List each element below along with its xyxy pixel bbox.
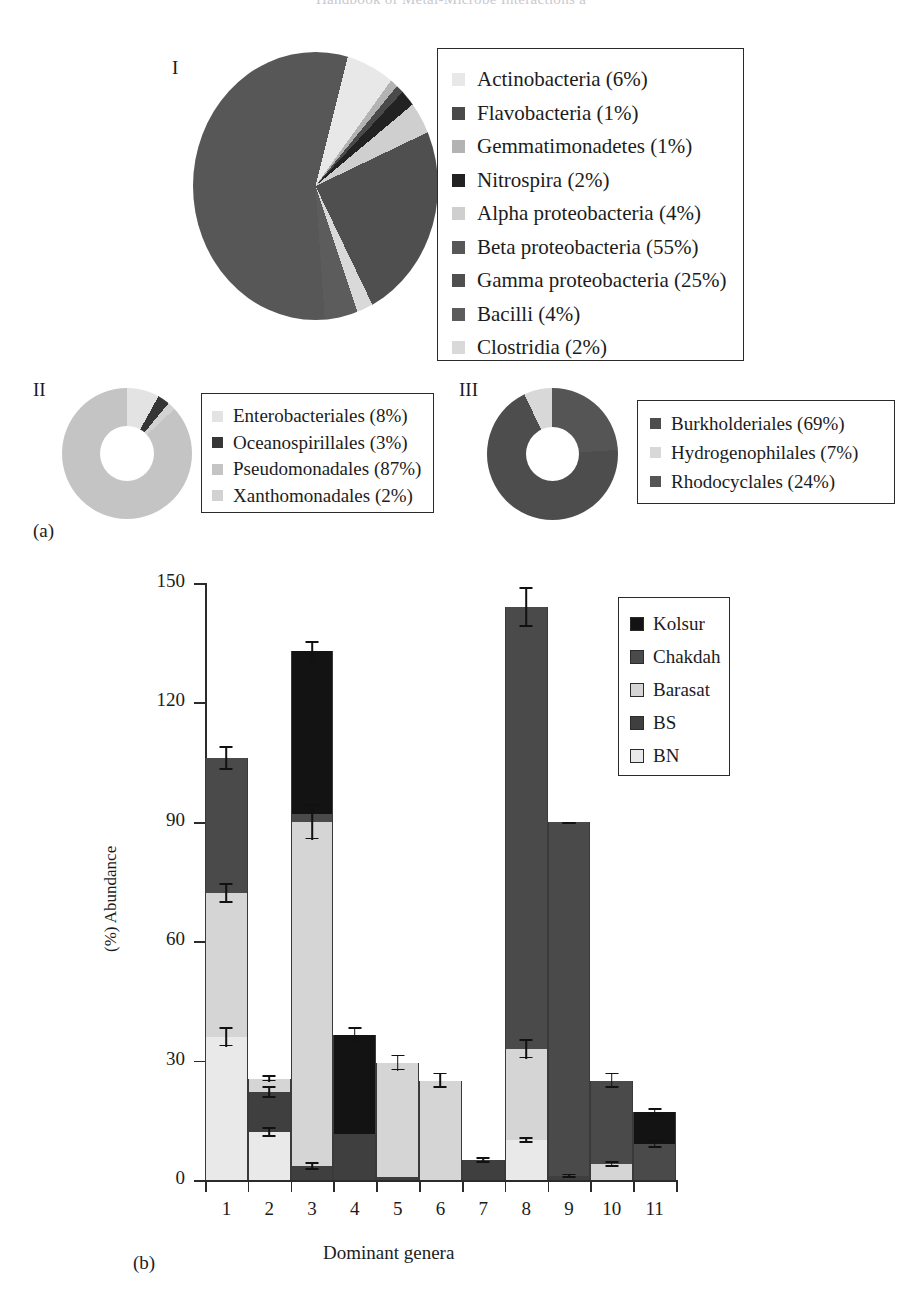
y-tick	[194, 1061, 205, 1063]
bar-segment-barasat	[505, 1049, 548, 1141]
error-bar	[633, 1140, 676, 1148]
x-tick	[333, 1180, 335, 1192]
y-axis-label: (%) Abundance	[101, 845, 121, 951]
error-bar	[291, 1162, 334, 1170]
x-tick-label: 4	[333, 1198, 376, 1220]
y-tick	[194, 702, 205, 704]
error-bar	[590, 1073, 633, 1089]
legend-swatch	[452, 107, 465, 120]
legend-bar-chart: KolsurChakdahBarasatBSBN	[618, 597, 730, 776]
x-tick	[291, 1180, 293, 1192]
x-tick	[205, 1180, 207, 1192]
y-tick	[194, 941, 205, 943]
legend-item: Burkholderiales (69%)	[650, 409, 894, 438]
legend-label: Bacilli (4%)	[477, 302, 580, 327]
bar-segment-barasat	[291, 822, 334, 1166]
legend-item: Hydrogenophilales (7%)	[650, 438, 894, 467]
pie-chart-I	[193, 52, 438, 320]
error-bar	[548, 1174, 591, 1179]
x-tick-label: 11	[633, 1198, 676, 1220]
legend-label: Nitrospira (2%)	[477, 168, 609, 193]
legend-pie-III: Burkholderiales (69%)Hydrogenophilales (…	[637, 400, 895, 504]
x-tick-label: 1	[205, 1198, 248, 1220]
legend-swatch	[630, 683, 644, 697]
legend-label: BS	[653, 712, 676, 734]
legend-item: Clostridia (2%)	[452, 331, 743, 365]
legend-item: Kolsur	[630, 607, 729, 640]
legend-label: Kolsur	[653, 613, 705, 635]
bar-segment-kolsur	[291, 651, 334, 814]
error-bar	[248, 1086, 291, 1098]
legend-swatch	[452, 174, 465, 187]
legend-swatch	[212, 411, 223, 422]
legend-label: Gemmatimonadetes (1%)	[477, 134, 692, 159]
legend-swatch	[452, 308, 465, 321]
error-bar	[248, 1075, 291, 1081]
bar-segment-chakdah	[205, 758, 248, 893]
legend-item: Pseudomonadales (87%)	[212, 456, 433, 483]
bar-chart-panel-b: 0306090120150(%) Abundance1234567891011D…	[0, 545, 902, 1285]
donut-II-hole	[100, 426, 154, 481]
legend-swatch	[452, 341, 465, 354]
pie-II-roman-label: II	[33, 379, 46, 401]
bar-segment-barasat	[419, 1081, 462, 1181]
legend-swatch	[650, 476, 661, 487]
error-bar	[633, 1108, 676, 1116]
legend-item: Alpha proteobacteria (4%)	[452, 197, 743, 231]
legend-swatch	[630, 716, 644, 730]
y-tick-label: 120	[127, 689, 185, 711]
legend-swatch	[630, 749, 644, 763]
bar-column	[419, 583, 462, 1180]
error-bar	[291, 804, 334, 840]
legend-label: Enterobacteriales (8%)	[233, 405, 408, 427]
bar-column	[376, 583, 419, 1180]
legend-item: Nitrospira (2%)	[452, 164, 743, 198]
legend-swatch	[452, 140, 465, 153]
legend-label: Oceanospirillales (3%)	[233, 432, 408, 454]
panel-a-label: (a)	[33, 520, 54, 542]
legend-swatch	[650, 447, 661, 458]
error-bar	[419, 1073, 462, 1089]
y-tick-label: 0	[127, 1167, 185, 1189]
error-bar	[505, 1039, 548, 1059]
error-bar	[205, 1027, 248, 1047]
bar-column	[333, 583, 376, 1180]
bar-segment-bs	[333, 1134, 376, 1180]
bar-segment-chakdah	[590, 1081, 633, 1165]
legend-swatch	[452, 241, 465, 254]
legend-swatch	[630, 617, 644, 631]
error-bar	[462, 1157, 505, 1163]
legend-label: Chakdah	[653, 646, 721, 668]
bar-column	[291, 583, 334, 1180]
legend-pie-I: Actinobacteria (6%)Flavobacteria (1%)Gem…	[437, 48, 744, 361]
y-tick-label: 90	[127, 809, 185, 831]
bar-segment-bs	[376, 1177, 419, 1180]
running-head: Handbook of Metal-Microbe Interactions a	[0, 0, 902, 7]
legend-item: Barasat	[630, 673, 729, 706]
bar-segment-bn	[248, 1132, 291, 1180]
x-tick-label: 10	[590, 1198, 633, 1220]
bar-segment-chakdah	[633, 1144, 676, 1180]
legend-item: Gamma proteobacteria (25%)	[452, 264, 743, 298]
x-axis-label: Dominant genera	[323, 1242, 454, 1264]
legend-item: Xanthomonadales (2%)	[212, 483, 433, 510]
legend-swatch	[650, 418, 661, 429]
legend-label: Xanthomonadales (2%)	[233, 485, 413, 507]
bar-column	[205, 583, 248, 1180]
bar-column	[548, 583, 591, 1180]
legend-label: Beta proteobacteria (55%)	[477, 235, 699, 260]
bar-segment-chakdah	[505, 607, 548, 1049]
x-tick	[419, 1180, 421, 1192]
legend-swatch	[452, 73, 465, 86]
x-tick	[505, 1180, 507, 1192]
legend-label: Pseudomonadales (87%)	[233, 458, 421, 480]
error-bar	[291, 641, 334, 661]
error-bar	[205, 746, 248, 770]
legend-item: Gemmatimonadetes (1%)	[452, 130, 743, 164]
legend-item: Oceanospirillales (3%)	[212, 430, 433, 457]
x-tick-label: 2	[248, 1198, 291, 1220]
legend-swatch	[452, 207, 465, 220]
x-tick	[548, 1180, 550, 1192]
x-tick-label: 5	[376, 1198, 419, 1220]
bar-segment-bn	[505, 1140, 548, 1180]
